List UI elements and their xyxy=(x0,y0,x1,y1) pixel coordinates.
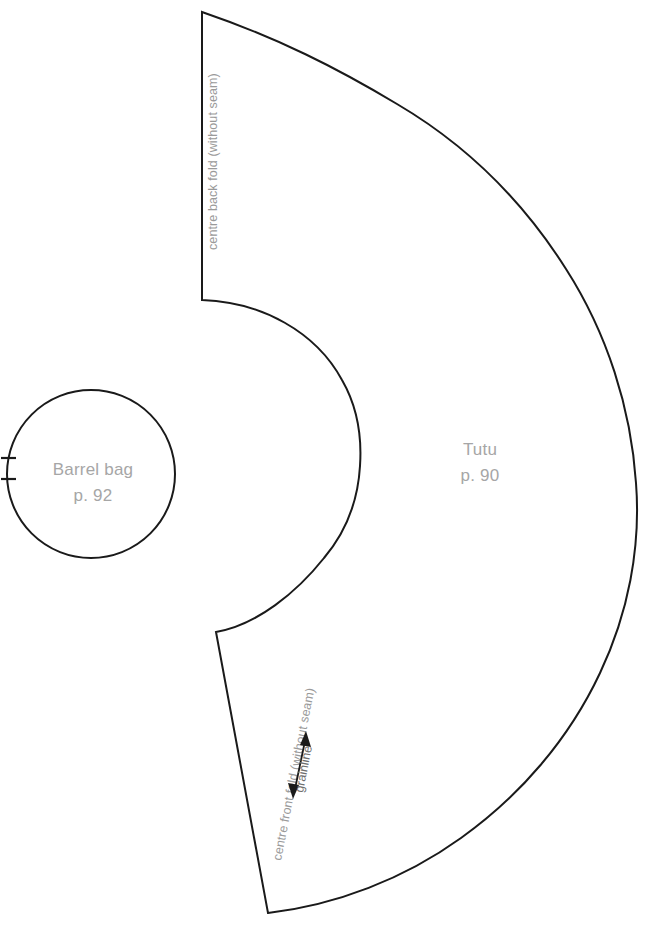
pattern-piece-tutu[interactable] xyxy=(202,12,637,913)
pattern-sheet: centre back fold (without seam) centre f… xyxy=(0,0,650,927)
barrel-bag-piece-page: p. 92 xyxy=(74,486,113,505)
tutu-piece-page: p. 90 xyxy=(461,466,500,485)
pattern-drawing-canvas: centre back fold (without seam) centre f… xyxy=(0,0,650,927)
tutu-piece-name: Tutu xyxy=(463,440,497,459)
barrel-bag-piece-name: Barrel bag xyxy=(53,460,133,479)
tutu-centre-back-fold-label: centre back fold (without seam) xyxy=(206,73,220,250)
tutu-outline-path[interactable] xyxy=(202,12,637,913)
